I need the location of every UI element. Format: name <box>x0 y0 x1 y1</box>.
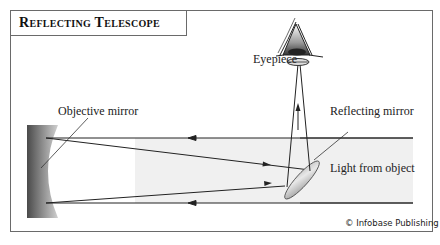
diagram-title: Reflecting Telescope <box>19 15 160 31</box>
telescope-diagram <box>0 0 440 245</box>
credit-text: © Infobase Publishing <box>345 218 439 228</box>
label-objective-mirror: Objective mirror <box>58 104 138 119</box>
label-eyepiece: Eyepiece <box>253 52 297 67</box>
arrow-up-icon <box>296 103 301 111</box>
label-reflecting-mirror: Reflecting mirror <box>330 104 414 119</box>
label-light-from-object: Light from object <box>330 161 415 176</box>
title-box: Reflecting Telescope <box>10 10 187 36</box>
